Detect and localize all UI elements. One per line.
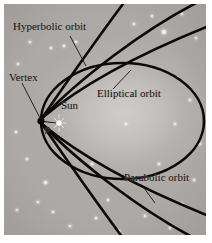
label-hyperbolic-orbit: Hyperbolic orbit bbox=[13, 21, 86, 32]
orbit-curves-layer bbox=[4, 4, 206, 235]
vertex-point-marker bbox=[37, 117, 44, 124]
diagram-plate: Hyperbolic orbit Elliptical orbit Parabo… bbox=[4, 4, 206, 235]
hyperbolic-orbit-path-outer bbox=[41, 4, 133, 235]
orbit-diagram-figure: Hyperbolic orbit Elliptical orbit Parabo… bbox=[0, 0, 212, 243]
label-sun: Sun bbox=[61, 100, 78, 111]
label-vertex: Vertex bbox=[9, 72, 38, 83]
elliptical-orbit-path bbox=[41, 63, 204, 179]
label-p-parameter: p bbox=[45, 123, 50, 134]
parabolic-orbit-path bbox=[41, 26, 207, 216]
leader-vertex bbox=[22, 83, 40, 118]
label-parabolic-orbit: Parabolic orbit bbox=[124, 172, 189, 183]
leader-hyperbolic bbox=[70, 36, 86, 66]
label-elliptical-orbit: Elliptical orbit bbox=[97, 88, 161, 99]
